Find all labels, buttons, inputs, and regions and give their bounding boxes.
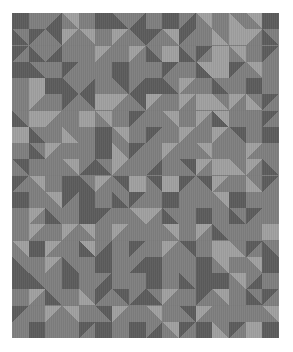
pattern-tile: [79, 46, 96, 62]
pattern-tile: [262, 78, 279, 94]
pattern-tile: [129, 208, 146, 224]
pattern-tile: [45, 62, 62, 78]
pattern-tile: [79, 192, 96, 208]
pattern-tile: [179, 13, 196, 29]
pattern-tile: [262, 29, 279, 45]
pattern-tile: [12, 241, 29, 257]
pattern-tile: [229, 192, 246, 208]
pattern-tile: [262, 289, 279, 305]
pattern-tile: [262, 94, 279, 110]
pattern-tile: [196, 111, 213, 127]
pattern-tile: [246, 62, 263, 78]
pattern-tile: [45, 306, 62, 322]
pattern-tile: [129, 192, 146, 208]
pattern-tile: [146, 176, 163, 192]
pattern-tile: [29, 13, 46, 29]
pattern-tile: [45, 241, 62, 257]
pattern-tile: [179, 289, 196, 305]
pattern-tile: [146, 241, 163, 257]
pattern-tile: [95, 94, 112, 110]
pattern-tile: [196, 176, 213, 192]
pattern-tile: [112, 62, 129, 78]
pattern-tile: [212, 111, 229, 127]
pattern-tile: [262, 127, 279, 143]
pattern-tile: [129, 289, 146, 305]
pattern-tile: [262, 241, 279, 257]
pattern-tile: [112, 273, 129, 289]
pattern-tile: [79, 94, 96, 110]
pattern-tile: [179, 241, 196, 257]
pattern-tile: [45, 273, 62, 289]
pattern-tile: [246, 241, 263, 257]
pattern-tile: [129, 176, 146, 192]
pattern-tile: [246, 143, 263, 159]
pattern-tile: [146, 273, 163, 289]
pattern-tile: [112, 192, 129, 208]
pattern-tile: [262, 143, 279, 159]
pattern-tile: [12, 94, 29, 110]
pattern-tile: [12, 224, 29, 240]
pattern-tile: [62, 111, 79, 127]
pattern-tile: [79, 322, 96, 338]
pattern-tile: [179, 208, 196, 224]
pattern-tile: [229, 78, 246, 94]
pattern-tile: [162, 257, 179, 273]
pattern-tile: [45, 224, 62, 240]
pattern-tile: [129, 13, 146, 29]
pattern-tile: [112, 29, 129, 45]
pattern-tile: [246, 306, 263, 322]
pattern-tile: [45, 208, 62, 224]
pattern-tile: [229, 62, 246, 78]
pattern-tile: [95, 78, 112, 94]
pattern-tile: [129, 143, 146, 159]
pattern-tile: [146, 78, 163, 94]
pattern-tile: [129, 224, 146, 240]
pattern-tile: [162, 192, 179, 208]
geometric-quilt-pattern: [12, 13, 279, 338]
pattern-tile: [162, 13, 179, 29]
pattern-tile: [146, 224, 163, 240]
pattern-tile: [12, 143, 29, 159]
pattern-tile: [79, 13, 96, 29]
pattern-tile: [146, 62, 163, 78]
pattern-tile: [95, 46, 112, 62]
pattern-tile: [212, 273, 229, 289]
pattern-tile: [79, 111, 96, 127]
pattern-tile: [246, 176, 263, 192]
pattern-tile: [196, 29, 213, 45]
pattern-tile: [112, 257, 129, 273]
pattern-tile: [229, 322, 246, 338]
pattern-tile: [62, 208, 79, 224]
pattern-tile: [196, 46, 213, 62]
pattern-tile: [262, 257, 279, 273]
pattern-tile: [62, 273, 79, 289]
pattern-tile: [246, 257, 263, 273]
pattern-tile: [112, 224, 129, 240]
pattern-tile: [112, 289, 129, 305]
pattern-tile: [45, 94, 62, 110]
pattern-tile: [212, 224, 229, 240]
pattern-tile: [129, 306, 146, 322]
pattern-tile: [162, 289, 179, 305]
pattern-tile: [212, 257, 229, 273]
pattern-tile: [29, 192, 46, 208]
pattern-tile: [262, 62, 279, 78]
pattern-tile: [179, 322, 196, 338]
pattern-tile: [112, 94, 129, 110]
pattern-tile: [262, 46, 279, 62]
pattern-tile: [229, 289, 246, 305]
pattern-tile: [162, 306, 179, 322]
pattern-tile: [95, 257, 112, 273]
pattern-tile: [246, 94, 263, 110]
pattern-tile: [146, 127, 163, 143]
pattern-tile: [196, 94, 213, 110]
pattern-tile: [62, 176, 79, 192]
pattern-tile: [29, 224, 46, 240]
pattern-tile: [162, 143, 179, 159]
pattern-tile: [179, 78, 196, 94]
pattern-tile: [196, 257, 213, 273]
pattern-tile: [29, 46, 46, 62]
pattern-tile: [146, 29, 163, 45]
pattern-tile: [45, 111, 62, 127]
pattern-tile: [229, 159, 246, 175]
